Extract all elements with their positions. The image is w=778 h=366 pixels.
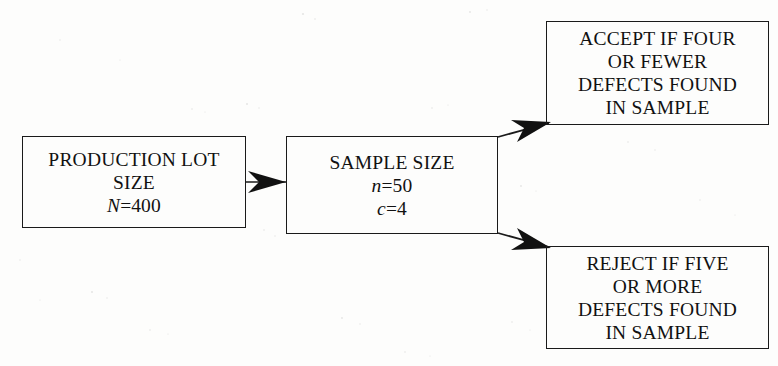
- accept-line-3: DEFECTS FOUND: [578, 73, 737, 96]
- reject-line-4: IN SAMPLE: [605, 321, 709, 344]
- operator-n: =: [382, 175, 393, 196]
- operator-N: =: [120, 195, 131, 216]
- value-n: 50: [393, 175, 413, 196]
- sample-variable-c: c=4: [377, 197, 407, 220]
- reject-outcome-box: REJECT IF FIVE OR MORE DEFECTS FOUND IN …: [546, 246, 769, 349]
- value-N: 400: [131, 195, 161, 216]
- production-lot-line-2: SIZE: [113, 171, 155, 194]
- reject-line-1: REJECT IF FIVE: [586, 252, 728, 275]
- accept-line-4: IN SAMPLE: [605, 96, 709, 119]
- accept-line-2: OR FEWER: [608, 50, 708, 73]
- edge-lot-to-sample: [246, 171, 286, 193]
- production-lot-variable-N: N=400: [107, 194, 161, 217]
- symbol-c: c: [377, 198, 386, 219]
- accept-outcome-box: ACCEPT IF FOUR OR FEWER DEFECTS FOUND IN…: [546, 21, 769, 125]
- reject-line-2: OR MORE: [613, 275, 703, 298]
- symbol-N: N: [107, 195, 120, 216]
- sample-size-box: SAMPLE SIZE n=50 c=4: [286, 136, 498, 234]
- production-lot-box: PRODUCTION LOT SIZE N=400: [22, 136, 246, 228]
- value-c: 4: [397, 198, 407, 219]
- operator-c: =: [386, 198, 397, 219]
- accept-line-1: ACCEPT IF FOUR: [579, 27, 735, 50]
- diagram-canvas: PRODUCTION LOT SIZE N=400 SAMPLE SIZE n=…: [0, 0, 778, 366]
- edge-sample-to-reject: [498, 228, 551, 250]
- reject-line-3: DEFECTS FOUND: [578, 298, 737, 321]
- production-lot-line-1: PRODUCTION LOT: [48, 148, 219, 171]
- edge-sample-to-accept: [498, 120, 551, 142]
- sample-variable-n: n=50: [372, 174, 413, 197]
- sample-size-line-1: SAMPLE SIZE: [329, 151, 454, 174]
- symbol-n: n: [372, 175, 382, 196]
